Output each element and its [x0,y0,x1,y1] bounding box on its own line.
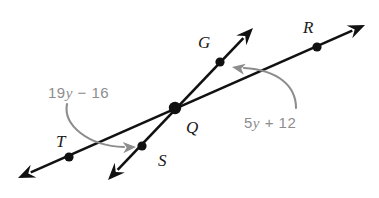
point-dot-T [64,152,73,161]
angle-label-GQR: 5y + 12 [244,114,296,131]
point-dot-Q [169,102,181,114]
point-label-T: T [56,132,67,151]
point-label-Q: Q [186,118,198,137]
angle-label-GQR-head: 5 [244,114,253,131]
angle-arcs-group [67,64,296,154]
line-through-S-Q-G [118,38,244,170]
lines-group [31,31,352,173]
point-label-G: G [198,33,210,52]
point-dot-G [215,57,224,66]
angle-label-GQR-var: y [251,115,260,131]
angle-label-TQS-tail: − 16 [73,84,109,101]
geometry-diagram: G R Q T S 19y − 16 5y + 12 [0,0,379,198]
point-label-R: R [302,18,314,37]
diagram-canvas: G R Q T S 19y − 16 5y + 12 [0,0,379,198]
angle-arc-TQS [67,104,124,147]
angle-arc-arrowhead-GQR [232,64,246,75]
line-through-T-Q-R [31,31,352,173]
angle-label-TQS-head: 19 [48,84,66,101]
angle-label-GQR-tail: + 12 [260,114,296,131]
point-label-S: S [158,151,167,170]
point-dot-R [312,42,321,51]
angle-label-TQS-var: y [64,85,73,101]
angle-label-TQS: 19y − 16 [48,84,109,101]
point-dot-S [137,141,146,150]
